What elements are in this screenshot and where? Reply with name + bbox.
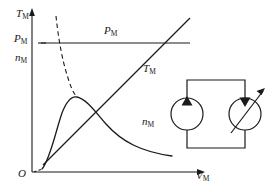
nm-tick-label: nM bbox=[15, 52, 27, 63]
pm-curve-label: PM bbox=[104, 25, 117, 36]
tm-curve bbox=[43, 18, 190, 165]
x-axis-label: VM bbox=[196, 170, 209, 181]
origin-label: O bbox=[18, 168, 26, 179]
variable-arrow-head-icon bbox=[257, 88, 266, 95]
nm-asymptote-dashed-curve bbox=[56, 16, 77, 97]
drive-circuit-schematic bbox=[171, 80, 265, 148]
pm-tick-label: PM bbox=[14, 33, 27, 44]
y-axis-arrowhead-icon bbox=[29, 8, 35, 16]
y-axis-label: TM bbox=[16, 8, 29, 19]
nm-curve-label: nM bbox=[142, 116, 154, 127]
nm-curve bbox=[42, 97, 172, 169]
tm-curve-label: TM bbox=[143, 63, 156, 74]
motor-characteristics-figure bbox=[0, 0, 274, 192]
